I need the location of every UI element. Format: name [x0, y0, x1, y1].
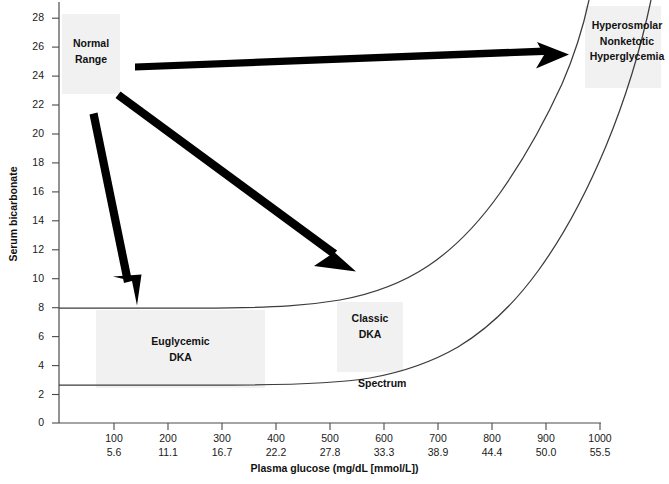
- arrow-to-euglycemic-dka: [90, 113, 142, 306]
- normal-range-line2: Range: [75, 53, 107, 65]
- chart-plot-area: [0, 0, 669, 484]
- x-axis-title: Plasma glucose (mg/dL [mmol/L]): [0, 462, 669, 474]
- x-tick-mmoll-16-7: 16.7: [199, 446, 245, 458]
- hyperosmolar-label: Hyperosmolar Nonketotic Hyperglycemia: [585, 18, 669, 65]
- y-tick-12: 12: [22, 243, 44, 255]
- normal-range-label: Normal Range: [62, 36, 120, 67]
- y-tick-20: 20: [22, 127, 44, 139]
- y-axis-ticks: [52, 18, 59, 423]
- classic-dka-label: Classic DKA: [337, 311, 403, 342]
- y-tick-4: 4: [22, 359, 44, 371]
- x-tick-mmoll-55-5: 55.5: [577, 446, 623, 458]
- x-tick-mgdl-900: 900: [523, 432, 569, 444]
- y-tick-6: 6: [22, 330, 44, 342]
- x-tick-mgdl-300: 300: [199, 432, 245, 444]
- x-axis-ticks: [114, 423, 600, 430]
- y-tick-0: 0: [22, 416, 44, 428]
- hyperosmolar-line2: Nonketotic: [600, 35, 654, 47]
- classic-dka-line1: Classic: [352, 312, 389, 324]
- y-axis-title: Serum bicarbonate: [7, 149, 19, 279]
- x-tick-mmoll-44-4: 44.4: [469, 446, 515, 458]
- hyperosmolar-line3: Hyperglycemia: [590, 50, 665, 62]
- euglycemic-dka-line1: Euglycemic: [151, 335, 209, 347]
- x-tick-mmoll-38-9: 38.9: [415, 446, 461, 458]
- y-tick-26: 26: [22, 40, 44, 52]
- x-tick-mgdl-700: 700: [415, 432, 461, 444]
- euglycemic-dka-label: Euglycemic DKA: [96, 334, 265, 365]
- euglycemic-dka-line2: DKA: [169, 351, 192, 363]
- x-tick-mmoll-11-1: 11.1: [145, 446, 191, 458]
- x-tick-mgdl-400: 400: [253, 432, 299, 444]
- spectrum-label: Spectrum: [358, 377, 406, 389]
- hyperosmolar-line1: Hyperosmolar: [592, 19, 663, 31]
- y-tick-22: 22: [22, 98, 44, 110]
- x-tick-mmoll-33-3: 33.3: [361, 446, 407, 458]
- x-tick-mgdl-500: 500: [307, 432, 353, 444]
- y-tick-28: 28: [22, 11, 44, 23]
- arrow-to-hyperosmolar: [135, 42, 569, 71]
- x-tick-mgdl-100: 100: [91, 432, 137, 444]
- y-tick-2: 2: [22, 388, 44, 400]
- x-tick-mmoll-27-8: 27.8: [307, 446, 353, 458]
- x-tick-mgdl-600: 600: [361, 432, 407, 444]
- x-tick-mgdl-1000: 1000: [577, 432, 623, 444]
- x-tick-mmoll-50-0: 50.0: [523, 446, 569, 458]
- y-tick-14: 14: [22, 214, 44, 226]
- y-tick-10: 10: [22, 272, 44, 284]
- x-tick-mgdl-200: 200: [145, 432, 191, 444]
- chart-figure: 28 26 24 22 20 18 16 14 12 10 8 6 4 2 0 …: [0, 0, 669, 484]
- x-tick-mmoll-5-6: 5.6: [91, 446, 137, 458]
- chart-arrows: [90, 42, 570, 306]
- x-tick-mgdl-800: 800: [469, 432, 515, 444]
- classic-dka-line2: DKA: [359, 328, 382, 340]
- y-tick-16: 16: [22, 185, 44, 197]
- x-tick-mmoll-22-2: 22.2: [253, 446, 299, 458]
- y-tick-18: 18: [22, 156, 44, 168]
- arrow-to-classic-dka: [116, 92, 357, 272]
- y-tick-8: 8: [22, 301, 44, 313]
- normal-range-line1: Normal: [73, 37, 109, 49]
- y-tick-24: 24: [22, 69, 44, 81]
